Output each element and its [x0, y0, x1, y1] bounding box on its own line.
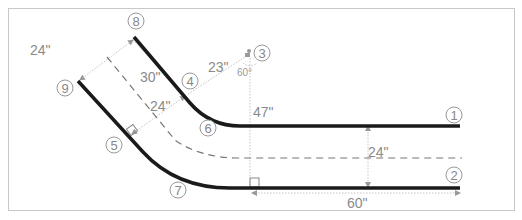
- corridor-diagram: 24" 30" 24" 23" 60° 47" 24" 60" 1 2 3 4 …: [0, 0, 522, 220]
- dim-diag-length: 30": [140, 69, 161, 85]
- dim-radius: 23": [208, 59, 229, 75]
- callout-5-label: 5: [110, 138, 117, 153]
- dim-vertical: 47": [253, 104, 274, 120]
- callout-1-label: 1: [450, 108, 457, 123]
- outer-wall: [78, 81, 460, 188]
- callout-9-label: 9: [61, 81, 68, 96]
- right-angle-marker: [250, 178, 259, 187]
- callout-6-label: 6: [204, 121, 211, 136]
- dim-mid-width: 24": [150, 98, 171, 114]
- center-point-icon: [245, 49, 251, 57]
- dim-straight-length: 60": [347, 195, 368, 211]
- callout-4-label: 4: [186, 74, 193, 89]
- dim-angle: 60°: [237, 67, 252, 78]
- callout-8-label: 8: [132, 14, 139, 29]
- callout-3-label: 3: [258, 46, 265, 61]
- dim-right-width: 24": [368, 144, 389, 160]
- dim-top-width: 24": [30, 42, 51, 58]
- callout-2-label: 2: [450, 168, 457, 183]
- callout-7-label: 7: [174, 183, 181, 198]
